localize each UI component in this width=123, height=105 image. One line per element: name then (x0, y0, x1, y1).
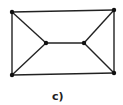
graph-node (10, 73, 14, 77)
graph-edge (12, 12, 46, 43)
graph-node (112, 8, 116, 12)
graph-edge (84, 43, 114, 73)
graph-node (82, 41, 86, 45)
graph-edge (12, 73, 114, 75)
graph-node (44, 41, 48, 45)
diagram-caption: c) (52, 90, 64, 103)
graph-edge (84, 10, 114, 43)
graph-edge (12, 43, 46, 75)
graph-edge (12, 10, 114, 12)
graph-node (112, 71, 116, 75)
graph-node (10, 10, 14, 14)
